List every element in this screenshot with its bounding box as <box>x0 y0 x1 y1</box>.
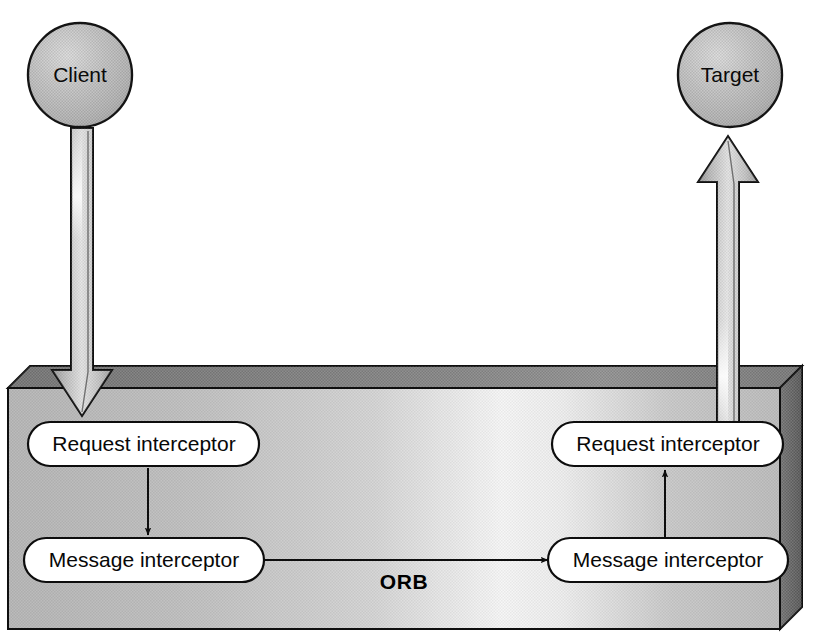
left-message-interceptor-label: Message interceptor <box>49 548 239 571</box>
right-request-interceptor-label: Request interceptor <box>576 432 759 455</box>
left-message-interceptor[interactable]: Message interceptor <box>24 538 264 582</box>
client-label: Client <box>53 63 107 86</box>
left-request-interceptor[interactable]: Request interceptor <box>28 422 259 466</box>
orb-container: ORB <box>8 366 802 629</box>
orb-box-side-face-texture <box>780 366 802 629</box>
right-message-interceptor[interactable]: Message interceptor <box>548 538 788 582</box>
right-request-interceptor[interactable]: Request interceptor <box>552 422 783 466</box>
client-to-orb-arrow <box>52 128 112 416</box>
orb-interceptor-diagram: ORB Client Target <box>0 0 823 641</box>
orb-to-target-arrow-highlight <box>719 186 728 430</box>
orb-box-top-face-texture <box>8 366 802 388</box>
left-request-interceptor-label: Request interceptor <box>52 432 235 455</box>
client-node[interactable]: Client <box>28 23 132 127</box>
target-node[interactable]: Target <box>678 23 782 127</box>
target-label: Target <box>701 63 760 86</box>
orb-label: ORB <box>380 570 428 593</box>
client-to-orb-arrow-highlight <box>73 130 82 368</box>
right-message-interceptor-label: Message interceptor <box>573 548 763 571</box>
diagram-canvas: ORB Client Target <box>0 0 823 641</box>
